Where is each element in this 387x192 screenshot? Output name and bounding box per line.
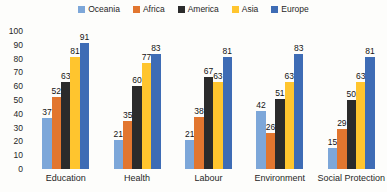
bar-america-social-protection: 50 — [347, 100, 356, 169]
bar-value-label: 83 — [294, 43, 303, 53]
legend-swatch-africa — [133, 6, 140, 13]
legend-label: Europe — [281, 4, 308, 14]
bar-value-label: 37 — [42, 107, 51, 117]
bar-value-label: 77 — [142, 52, 151, 62]
y-axis-tick-label: 20 — [0, 136, 23, 146]
bar-oceania-health: 21 — [114, 140, 123, 169]
y-axis-tick-label: 30 — [0, 123, 23, 133]
legend-item-america: America — [178, 4, 219, 14]
bar-value-label: 21 — [185, 129, 194, 139]
bar-africa-social-protection: 29 — [337, 129, 346, 169]
legend-swatch-oceania — [78, 6, 85, 13]
bar-africa-environment: 26 — [266, 133, 275, 169]
bar-europe-education: 91 — [80, 43, 89, 169]
bar-value-label: 63 — [213, 71, 222, 81]
bar-value-label: 52 — [52, 86, 61, 96]
bar-value-label: 21 — [114, 129, 123, 139]
category-label-health: Health — [124, 173, 150, 183]
bar-europe-health: 83 — [151, 54, 160, 169]
legend-swatch-europe — [271, 6, 278, 13]
bar-europe-social-protection: 81 — [365, 57, 374, 169]
bar-america-health: 60 — [132, 86, 141, 169]
bar-america-labour: 67 — [204, 77, 213, 169]
plot-groups: 3752638191Education2135607783Health21386… — [30, 31, 387, 169]
chart-legend: OceaniaAfricaAmericaAsiaEurope — [0, 4, 387, 14]
bar-africa-education: 52 — [52, 97, 61, 169]
plot-area: 1009080706050403020100 3752638191Educati… — [0, 31, 387, 169]
bar-group-health: 2135607783Health — [114, 31, 161, 169]
legend-item-europe: Europe — [271, 4, 308, 14]
bar-oceania-environment: 42 — [256, 111, 265, 169]
bar-value-label: 50 — [347, 89, 356, 99]
legend-item-asia: Asia — [232, 4, 259, 14]
bar-america-environment: 51 — [275, 99, 284, 169]
legend-item-oceania: Oceania — [78, 4, 120, 14]
bar-asia-labour: 63 — [213, 82, 222, 169]
category-label-social-protection: Social Protection — [317, 173, 385, 183]
category-label-environment: Environment — [255, 173, 306, 183]
y-axis-tick-label: 0 — [0, 164, 23, 174]
bar-value-label: 29 — [337, 118, 346, 128]
bar-value-label: 38 — [194, 106, 203, 116]
y-axis-tick-label: 70 — [0, 67, 23, 77]
y-axis-tick-label: 100 — [0, 26, 23, 36]
legend-label: Asia — [242, 4, 259, 14]
bar-value-label: 91 — [80, 32, 89, 42]
bar-america-education: 63 — [61, 82, 70, 169]
y-axis-tick-label: 50 — [0, 95, 23, 105]
bar-value-label: 83 — [151, 43, 160, 53]
bar-value-label: 26 — [266, 122, 275, 132]
bar-africa-health: 35 — [123, 121, 132, 169]
y-axis-tick-label: 60 — [0, 81, 23, 91]
bar-value-label: 63 — [356, 71, 365, 81]
bar-europe-labour: 81 — [223, 57, 232, 169]
y-axis: 1009080706050403020100 — [0, 31, 30, 169]
legend-item-africa: Africa — [133, 4, 165, 14]
bar-asia-environment: 63 — [285, 82, 294, 169]
bar-europe-environment: 83 — [294, 54, 303, 169]
bar-value-label: 63 — [61, 71, 70, 81]
bar-oceania-education: 37 — [42, 118, 51, 169]
bar-asia-education: 81 — [70, 57, 79, 169]
bar-value-label: 42 — [256, 100, 265, 110]
bar-value-label: 81 — [223, 46, 232, 56]
bar-asia-health: 77 — [142, 63, 151, 169]
bar-asia-social-protection: 63 — [356, 82, 365, 169]
bar-value-label: 51 — [275, 88, 284, 98]
legend-label: Oceania — [88, 4, 120, 14]
y-axis-tick-label: 10 — [0, 150, 23, 160]
legend-label: America — [188, 4, 219, 14]
bar-group-environment: 4226516383Environment — [256, 31, 303, 169]
y-axis-tick-label: 80 — [0, 54, 23, 64]
bar-value-label: 81 — [365, 46, 374, 56]
bar-oceania-labour: 21 — [185, 140, 194, 169]
legend-swatch-asia — [232, 6, 239, 13]
bar-value-label: 60 — [132, 75, 141, 85]
bar-oceania-social-protection: 15 — [328, 148, 337, 169]
bar-africa-labour: 38 — [194, 117, 203, 169]
bar-group-education: 3752638191Education — [42, 31, 89, 169]
bar-value-label: 63 — [285, 71, 294, 81]
bar-value-label: 35 — [123, 110, 132, 120]
bar-group-labour: 2138676381Labour — [185, 31, 232, 169]
y-axis-tick-label: 40 — [0, 109, 23, 119]
bar-group-social-protection: 1529506381Social Protection — [328, 31, 375, 169]
category-label-education: Education — [46, 173, 86, 183]
grouped-bar-chart: OceaniaAfricaAmericaAsiaEurope 100908070… — [0, 0, 387, 192]
legend-swatch-america — [178, 6, 185, 13]
bar-value-label: 15 — [328, 137, 337, 147]
bar-value-label: 67 — [204, 66, 213, 76]
legend-label: Africa — [143, 4, 165, 14]
category-label-labour: Labour — [194, 173, 222, 183]
y-axis-tick-label: 90 — [0, 40, 23, 50]
bar-value-label: 81 — [70, 46, 79, 56]
